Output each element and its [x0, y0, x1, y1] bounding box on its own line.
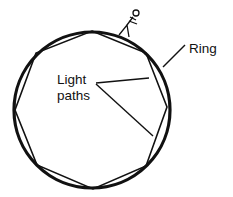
light-paths-leader-lower: [96, 84, 153, 136]
light-paths-leader-upper: [96, 78, 149, 83]
ring-leader-line: [163, 45, 185, 67]
light-paths-label-line2: paths: [57, 88, 90, 103]
light-paths-label-line1: Light: [57, 72, 87, 87]
ring-label: Ring: [189, 41, 217, 56]
observer-stick-figure-icon: [119, 10, 139, 37]
ring-circle: [14, 32, 170, 188]
light-paths-ring-diagram: Ring Light paths: [0, 0, 233, 197]
